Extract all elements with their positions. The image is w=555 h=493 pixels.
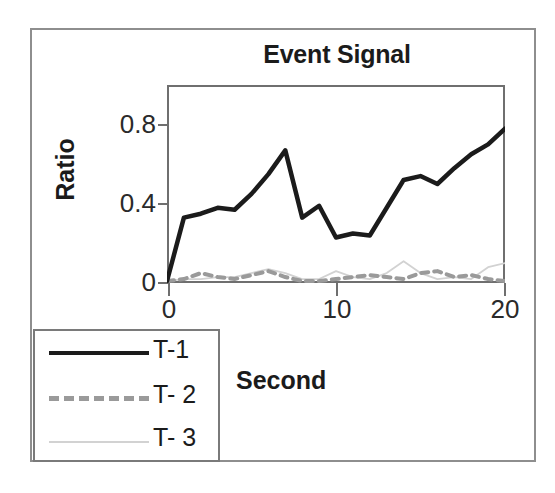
legend-item-t-3: T- 3 (35, 421, 218, 461)
y-axis-label: Ratio (51, 100, 80, 240)
legend-item-t-1: T-1 (35, 333, 218, 373)
legend-swatch-dashed-line-icon (49, 396, 149, 407)
x-tick-label-0: 0 (139, 294, 199, 325)
plot-area (167, 85, 505, 283)
series-line-t-1 (167, 129, 505, 281)
x-axis-label: Second (236, 366, 326, 395)
legend-swatch-thin-line-icon (49, 441, 149, 449)
x-tick-label-10: 10 (307, 294, 367, 325)
x-tick-label-20: 20 (475, 294, 535, 325)
y-tick-label-0.4: 0.4 (104, 188, 156, 219)
chart-legend: T-1 T- 2 T- 3 (33, 329, 220, 462)
legend-swatch-solid-line-icon (49, 351, 149, 361)
legend-label-t-2: T- 2 (153, 380, 196, 409)
chart-title: Event Signal (167, 40, 507, 69)
y-tick-label-0.8: 0.8 (104, 109, 156, 140)
legend-label-t-3: T- 3 (153, 423, 196, 452)
chart-figure: Event Signal Ratio 0.8 0.4 0 0 10 20 Sec… (0, 0, 555, 493)
series-group (167, 129, 505, 281)
legend-item-t-2: T- 2 (35, 378, 218, 418)
legend-label-t-1: T-1 (153, 335, 189, 364)
series-line-t-2 (167, 271, 505, 281)
